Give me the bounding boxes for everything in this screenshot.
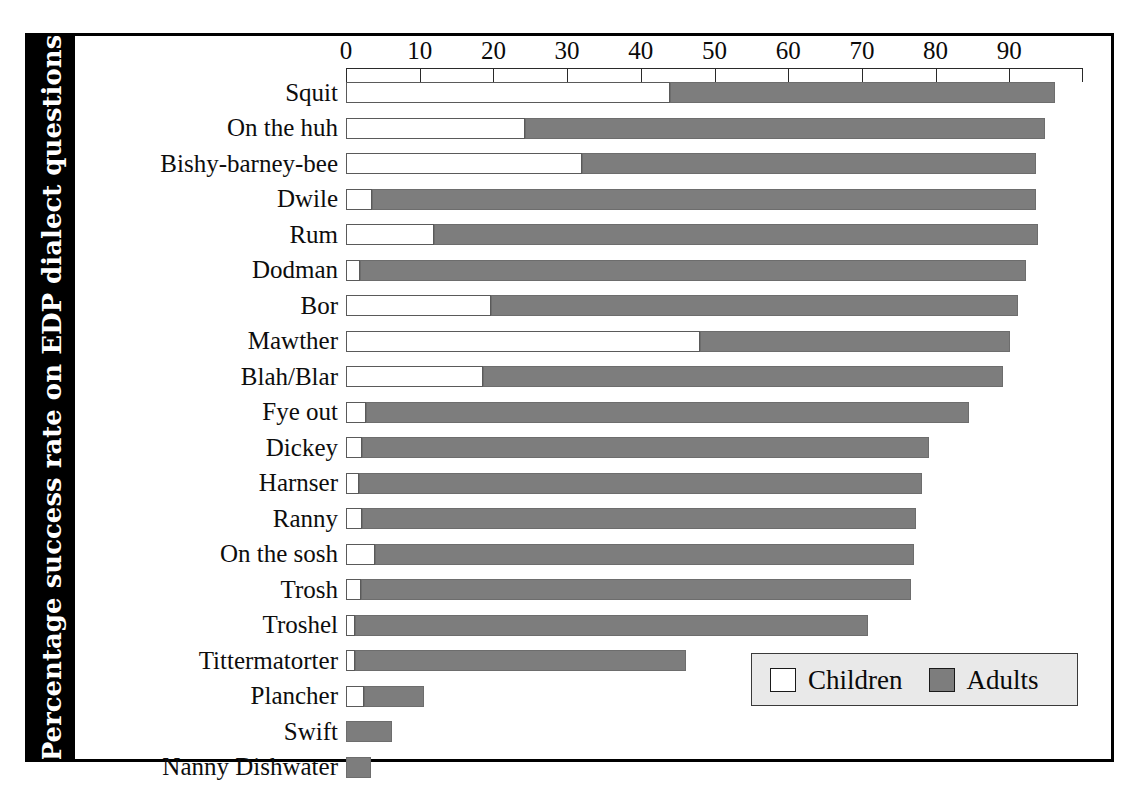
bar-track [346,331,1083,352]
bar-row: Blah/Blar [75,366,1111,387]
category-label: Squit [75,80,338,106]
category-label: Troshel [75,612,338,638]
bar-segment-children [346,82,670,103]
bar-segment-children [346,615,355,636]
x-tick-label-30: 30 [555,36,580,66]
bar-track [346,118,1083,139]
bar-row: On the huh [75,118,1111,139]
bar-segment-adults [346,757,371,778]
bar-segment-children [346,650,355,671]
bar-track [346,437,1083,458]
category-label: Dickey [75,435,338,461]
bar-track [346,721,1083,742]
chart-legend: Children Adults [751,653,1078,706]
category-label: On the huh [75,115,338,141]
y-axis-title-band: Percentage success rate on EDP dialect q… [28,36,75,759]
category-label: Plancher [75,683,338,709]
bar-row: Fye out [75,402,1111,423]
bar-segment-children [346,437,362,458]
bar-segment-children [346,224,434,245]
x-tick-mark-80 [936,68,937,82]
bar-segment-adults [582,153,1036,174]
bar-track [346,153,1083,174]
bar-row: Nanny Dishwater [75,757,1111,778]
bar-segment-adults [483,366,1003,387]
x-tick-label-80: 80 [923,36,948,66]
bar-segment-adults [525,118,1045,139]
legend-swatch-children-icon [770,668,796,692]
category-label: Tittermatorter [75,648,338,674]
category-label: Bor [75,293,338,319]
chart-frame: Percentage success rate on EDP dialect q… [25,33,1114,762]
category-label: Ranny [75,506,338,532]
bar-segment-children [346,260,360,281]
bar-segment-children [346,402,366,423]
bar-row: On the sosh [75,544,1111,565]
legend-entry-adults: Adults [929,666,1039,694]
bar-track [346,579,1083,600]
bar-row: Squit [75,82,1111,103]
bar-row: Dwile [75,189,1111,210]
bar-track [346,544,1083,565]
x-tick-label-20: 20 [481,36,506,66]
bar-segment-adults [355,615,868,636]
category-label: Harnser [75,470,338,496]
x-axis-end-cap [1082,68,1083,82]
bar-row: Harnser [75,473,1111,494]
bar-segment-adults [362,437,929,458]
x-tick-mark-90 [1009,68,1010,82]
bar-segment-children [346,118,525,139]
x-tick-label-0: 0 [340,36,353,66]
bar-segment-adults [361,579,912,600]
bar-track [346,508,1083,529]
category-label: Rum [75,222,338,248]
bar-row: Ranny [75,508,1111,529]
bar-row: Mawther [75,331,1111,352]
bar-segment-children [346,331,700,352]
bar-segment-children [346,686,364,707]
x-tick-label-90: 90 [997,36,1022,66]
chart-figure: Percentage success rate on EDP dialect q… [0,0,1138,795]
bar-segment-adults [346,721,392,742]
bar-segment-children [346,473,359,494]
bar-segment-adults [700,331,1010,352]
bar-segment-children [346,366,483,387]
category-label: Blah/Blar [75,364,338,390]
bar-track [346,757,1083,778]
bar-segment-adults [362,508,915,529]
plot-area: 0102030405060708090 SquitOn the huhBishy… [75,36,1111,759]
legend-swatch-adults-icon [929,668,955,692]
x-tick-mark-60 [788,68,789,82]
category-label: Mawther [75,328,338,354]
category-label: Fye out [75,399,338,425]
bar-segment-adults [434,224,1038,245]
bar-track [346,615,1083,636]
x-tick-mark-40 [641,68,642,82]
x-axis-tick-labels: 0102030405060708090 [75,36,1111,68]
x-tick-label-40: 40 [628,36,653,66]
category-label: Dwile [75,186,338,212]
bar-row: Dodman [75,260,1111,281]
x-tick-mark-20 [493,68,494,82]
bar-track [346,295,1083,316]
bar-segment-adults [366,402,969,423]
bar-segment-children [346,295,491,316]
bar-segment-adults [375,544,914,565]
bar-row: Bishy-barney-bee [75,153,1111,174]
bar-segment-adults [355,650,686,671]
x-tick-label-50: 50 [702,36,727,66]
bar-segment-children [346,189,372,210]
bar-track [346,260,1083,281]
bar-segment-adults [491,295,1018,316]
x-tick-label-60: 60 [776,36,801,66]
bar-segment-adults [359,473,922,494]
y-axis-title: Percentage success rate on EDP dialect q… [37,36,67,759]
bar-segment-adults [360,260,1026,281]
legend-label-adults: Adults [967,666,1039,694]
bar-track [346,189,1083,210]
bar-track [346,473,1083,494]
x-axis-rule [346,68,1083,82]
category-label: On the sosh [75,541,338,567]
bar-segment-children [346,544,375,565]
x-tick-mark-0 [346,68,347,82]
